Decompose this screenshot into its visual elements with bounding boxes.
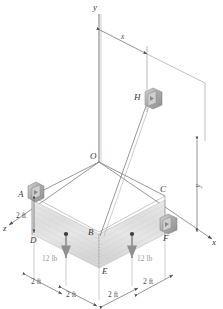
dimension-bottom-right-inner: 2 ft (108, 291, 118, 299)
point-label-A: A (18, 190, 24, 199)
dimension-label-y: y (194, 184, 202, 187)
bracket-A (28, 182, 44, 202)
axis-label-y: y (93, 3, 97, 12)
statics-figure: y x H O y x z A C B D F E 2 ft 12 lb 12 … (0, 0, 223, 309)
point-label-C: C (160, 185, 166, 194)
point-label-D: D (30, 236, 37, 245)
point-label-H: H (134, 93, 141, 102)
bracket-F (160, 214, 177, 234)
dimension-bottom-left-outer: 2 ft (31, 278, 41, 286)
y-axis (99, 14, 101, 162)
point-label-B: B (88, 228, 94, 237)
figure-canvas (0, 0, 223, 309)
force-label-right: 12 lb (137, 255, 152, 263)
bracket-H (145, 88, 162, 109)
point-label-E: E (102, 267, 108, 276)
dimension-height-left: 2 ft (16, 212, 26, 220)
dimension-label-x: x (121, 33, 124, 41)
dimension-bottom-left-inner: 2 ft (66, 291, 76, 299)
point-label-F: F (163, 234, 169, 243)
axis-label-z: z (3, 224, 7, 233)
force-label-left: 12 lb (42, 255, 57, 263)
point-label-O: O (90, 152, 97, 161)
axis-label-x: x (212, 238, 216, 247)
dimension-bottom-right-outer: 2 ft (143, 278, 153, 286)
